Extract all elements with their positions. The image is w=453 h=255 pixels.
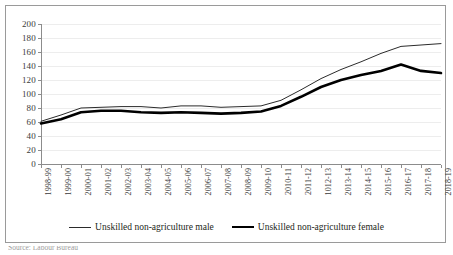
legend-item[interactable]: Unskilled non-agriculture male xyxy=(69,222,214,232)
legend-item-label: Unskilled non-agriculture female xyxy=(258,222,384,232)
x-axis-tick-label: 2009-10 xyxy=(265,168,273,195)
y-axis-tick-label: 0 xyxy=(6,160,36,169)
x-axis-tick-label: 2011-12 xyxy=(305,168,313,195)
y-axis-tick-label: 80 xyxy=(6,104,36,113)
x-axis-tick-label: 2005-06 xyxy=(185,168,193,195)
y-axis-tick-label: 200 xyxy=(6,20,36,29)
x-axis-tick-label: 2015-16 xyxy=(385,168,393,195)
source-note: Source: Labour Bureau xyxy=(8,246,208,255)
legend-item-label: Unskilled non-agriculture male xyxy=(95,222,214,232)
x-axis-tick-label: 2002-03 xyxy=(125,168,133,195)
x-axis-tick-label: 2018-19 xyxy=(445,168,453,195)
source-note-text: Source: Labour Bureau xyxy=(8,246,208,252)
x-axis-tick-label: 2010-11 xyxy=(285,168,293,195)
data-series-group xyxy=(41,24,441,164)
chart-figure: 020406080100120140160180200 1998-991999-… xyxy=(0,0,453,255)
legend-line-icon xyxy=(69,227,91,228)
x-axis-tick-label: 1998-99 xyxy=(45,168,53,195)
y-axis-tick-label: 20 xyxy=(6,146,36,155)
y-axis-tick-label: 180 xyxy=(6,34,36,43)
y-axis-tick-label: 120 xyxy=(6,76,36,85)
x-axis-tick-label: 2006-07 xyxy=(205,168,213,195)
y-axis-tick-label: 40 xyxy=(6,132,36,141)
x-axis-tick-label: 2000-01 xyxy=(85,168,93,195)
y-axis-tick-label: 160 xyxy=(6,48,36,57)
series-line-female xyxy=(41,65,441,124)
x-axis-tick-label: 2003-04 xyxy=(145,168,153,195)
x-axis-tick-label: 2008-09 xyxy=(245,168,253,195)
x-axis-tick-label: 2007-08 xyxy=(225,168,233,195)
x-axis-labels: 1998-991999-002000-012001-022002-032003-… xyxy=(41,168,441,216)
legend-line-icon xyxy=(232,226,254,229)
x-axis-tick-label: 2013-14 xyxy=(345,168,353,195)
y-axis-tick-label: 60 xyxy=(6,118,36,127)
x-axis-tick-label: 2017-18 xyxy=(425,168,433,195)
x-axis-tick-label: 2014-15 xyxy=(365,168,373,195)
chart-legend: Unskilled non-agriculture maleUnskilled … xyxy=(0,222,453,232)
y-axis-tick-label: 140 xyxy=(6,62,36,71)
x-axis-tick-label: 2001-02 xyxy=(105,168,113,195)
x-axis-tick-label: 2016-17 xyxy=(405,168,413,195)
x-axis-tick-label: 1999-00 xyxy=(65,168,73,195)
y-axis-tick-label: 100 xyxy=(6,90,36,99)
x-tick-mark xyxy=(441,165,442,168)
x-axis-tick-label: 2004-05 xyxy=(165,168,173,195)
x-axis-tick-label: 1012-13 xyxy=(325,168,333,195)
legend-item[interactable]: Unskilled non-agriculture female xyxy=(232,222,384,232)
y-axis-labels: 020406080100120140160180200 xyxy=(3,24,36,164)
